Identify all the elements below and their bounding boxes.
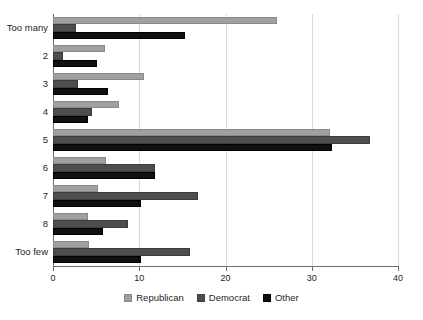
y-tick-label: Too many — [7, 23, 48, 33]
bar-democrat — [53, 220, 128, 227]
bar-republican — [53, 17, 277, 24]
y-tick-label: 7 — [43, 191, 48, 201]
bar-other — [53, 200, 141, 207]
bar-democrat — [53, 164, 155, 171]
bar-democrat — [53, 108, 92, 115]
bar-republican — [53, 157, 106, 164]
bar-group: Too many — [53, 14, 398, 42]
bar-democrat — [53, 192, 198, 199]
bar-group: 4 — [53, 98, 398, 126]
bar-other — [53, 32, 185, 39]
x-tick-mark — [139, 266, 140, 271]
legend-label: Democrat — [209, 293, 250, 303]
x-tick-mark — [398, 266, 399, 271]
bar-other — [53, 228, 103, 235]
bar-democrat — [53, 248, 190, 255]
bar-republican — [53, 45, 105, 52]
gridline — [398, 14, 399, 266]
bar-republican — [53, 185, 98, 192]
bar-other — [53, 60, 97, 67]
bar-group: 6 — [53, 154, 398, 182]
bar-group: 3 — [53, 70, 398, 98]
bar-group: 5 — [53, 126, 398, 154]
x-tick-mark — [53, 266, 54, 271]
y-tick-label: 8 — [43, 219, 48, 229]
bar-other — [53, 144, 332, 151]
bar-other — [53, 116, 88, 123]
legend-label: Other — [275, 293, 299, 303]
bar-republican — [53, 129, 330, 136]
bar-group: 2 — [53, 42, 398, 70]
bar-other — [53, 88, 108, 95]
x-tick-label: 10 — [124, 273, 154, 284]
bar-other — [53, 172, 155, 179]
bar-group: 8 — [53, 210, 398, 238]
y-tick-label: 4 — [43, 107, 48, 117]
bar-democrat — [53, 24, 76, 31]
x-tick-label: 40 — [383, 273, 413, 284]
bar-democrat — [53, 52, 63, 59]
legend-entry-democrat[interactable]: Democrat — [197, 293, 250, 303]
x-tick-mark — [226, 266, 227, 271]
y-tick-label: 5 — [43, 135, 48, 145]
bar-democrat — [53, 80, 78, 87]
y-tick-label: 6 — [43, 163, 48, 173]
bar-group: Too few — [53, 238, 398, 266]
bar-republican — [53, 241, 89, 248]
chart-legend: RepublicanDemocratOther — [0, 293, 423, 303]
bar-republican — [53, 73, 144, 80]
legend-swatch-democrat — [197, 294, 205, 302]
x-tick-mark — [312, 266, 313, 271]
y-tick-label: Too few — [15, 247, 48, 257]
bar-democrat — [53, 136, 370, 143]
bar-chart: 010203040 Too many2345678Too few Republi… — [0, 0, 423, 320]
x-tick-label: 0 — [38, 273, 68, 284]
bar-republican — [53, 213, 88, 220]
legend-entry-republican[interactable]: Republican — [124, 293, 184, 303]
y-tick-label: 3 — [43, 79, 48, 89]
legend-swatch-republican — [124, 294, 132, 302]
y-tick-label: 2 — [43, 51, 48, 61]
legend-swatch-other — [263, 294, 271, 302]
legend-entry-other[interactable]: Other — [263, 293, 299, 303]
bar-republican — [53, 101, 119, 108]
x-tick-label: 20 — [211, 273, 241, 284]
x-tick-label: 30 — [297, 273, 327, 284]
bar-other — [53, 256, 141, 263]
legend-label: Republican — [136, 293, 184, 303]
bar-group: 7 — [53, 182, 398, 210]
